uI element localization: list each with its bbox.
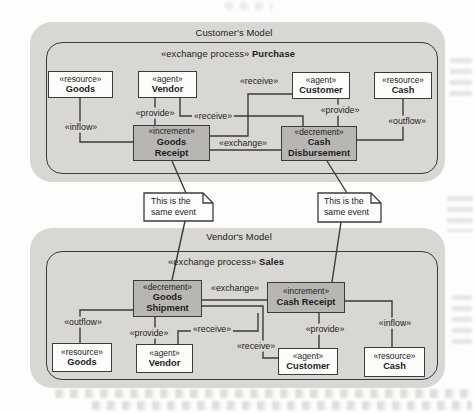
note-left-text: This is the same event — [151, 196, 196, 219]
label-cm-exchange: «exchange» — [217, 138, 269, 149]
vm-goods-resource-box: «resource» Goods — [52, 343, 112, 372]
diagram-page: Customer's Model «exchange process» Purc… — [0, 0, 474, 413]
label-cm-inflow: «inflow» — [63, 122, 99, 133]
vm-customer-name: Customer — [286, 361, 329, 372]
edge-cm-inflow — [80, 96, 133, 142]
cm-vendor-stereotype: «agent» — [152, 74, 182, 84]
vm-cash-receipt-event-box: «increment» Cash Receipt — [267, 282, 345, 313]
purchase-process-title: «exchange process» Purchase — [161, 49, 295, 58]
cm-cash-resource-box: «resource» Cash — [374, 72, 432, 99]
cm-goods-receipt-name-line2: Receipt — [155, 148, 189, 159]
note-left-line1: This is the — [151, 196, 196, 207]
customer-model-title: Customer's Model — [196, 28, 273, 37]
cm-cash-disbursement-stereotype: «decrement» — [295, 128, 344, 138]
vm-goods-shipment-event-box: «decrement» Goods Shipment — [133, 280, 202, 317]
cm-customer-name: Customer — [299, 85, 342, 96]
cm-customer-agent-box: «agent» Customer — [292, 72, 350, 99]
label-vm-outflow: «outflow» — [62, 317, 104, 328]
cm-vendor-name: Vendor — [152, 84, 184, 95]
cm-cash-stereotype: «resource» — [382, 75, 424, 85]
cm-cash-disbursement-event-box: «decrement» Cash Disbursement — [281, 126, 357, 161]
vm-customer-agent-box: «agent» Customer — [278, 348, 338, 375]
edge-note-left-bottom — [172, 221, 185, 280]
purchase-process-stereotype: «exchange process» — [161, 48, 249, 59]
vm-customer-stereotype: «agent» — [293, 351, 323, 361]
label-cm-provide-left: «provide» — [134, 108, 177, 119]
label-vm-inflow: «inflow» — [377, 318, 413, 329]
edge-note-right-top — [327, 161, 347, 193]
edge-note-right-bottom — [332, 222, 341, 282]
label-cm-outflow: «outflow» — [386, 116, 428, 127]
cm-customer-stereotype: «agent» — [306, 75, 336, 85]
note-right-text: This is the same event — [324, 196, 369, 219]
cm-cash-disbursement-name-line1: Cash — [308, 137, 331, 148]
vm-goods-shipment-stereotype: «decrement» — [143, 283, 192, 293]
purchase-process-name: Purchase — [252, 48, 295, 59]
cm-goods-resource-box: «resource» Goods — [48, 71, 113, 98]
label-vm-exchange: «exchange» — [209, 283, 261, 294]
note-right-line2: same event — [324, 207, 369, 218]
edge-note-left-top — [172, 161, 186, 193]
sales-process-stereotype: «exchange process» — [168, 256, 256, 267]
note-right-line1: This is the — [324, 196, 369, 207]
vm-cash-receipt-stereotype: «increment» — [283, 287, 329, 297]
label-vm-provide-left: «provide» — [128, 328, 171, 339]
vm-vendor-stereotype: «agent» — [149, 348, 179, 358]
cm-cash-name: Cash — [392, 85, 415, 96]
cm-goods-receipt-stereotype: «increment» — [148, 127, 194, 137]
cm-goods-receipt-event-box: «increment» Goods Receipt — [133, 125, 210, 161]
cm-cash-disbursement-name-line2: Disbursement — [288, 148, 350, 159]
vm-goods-shipment-name-line2: Shipment — [146, 303, 188, 314]
vm-cash-name: Cash — [383, 361, 406, 372]
label-vm-provide-right: «provide» — [304, 324, 347, 335]
cm-goods-name: Goods — [66, 84, 95, 95]
cm-goods-receipt-name-line1: Goods — [157, 137, 186, 148]
vm-cash-receipt-name: Cash Receipt — [277, 297, 336, 308]
sales-process-title: «exchange process» Sales — [168, 257, 284, 266]
label-cm-receive-customer: «receive» — [238, 76, 280, 87]
label-vm-receive-upper: «receive» — [191, 324, 233, 335]
label-cm-provide-right: «provide» — [319, 105, 362, 116]
vm-goods-name: Goods — [67, 357, 96, 368]
vendor-model-title: Vendor's Model — [206, 232, 272, 241]
note-left-line2: same event — [151, 207, 196, 218]
cm-vendor-agent-box: «agent» Vendor — [138, 71, 197, 98]
label-cm-receive-vendor: «receive» — [192, 111, 234, 122]
vm-goods-shipment-name-line1: Goods — [153, 292, 182, 303]
vm-vendor-agent-box: «agent» Vendor — [136, 344, 193, 373]
label-vm-receive-lower: «receive» — [235, 341, 277, 352]
vm-vendor-name: Vendor — [149, 358, 181, 369]
sales-process-name: Sales — [259, 256, 284, 267]
cm-goods-stereotype: «resource» — [60, 74, 102, 84]
vm-cash-resource-box: «resource» Cash — [364, 347, 425, 377]
vm-goods-stereotype: «resource» — [61, 347, 103, 357]
vm-cash-stereotype: «resource» — [374, 351, 416, 361]
